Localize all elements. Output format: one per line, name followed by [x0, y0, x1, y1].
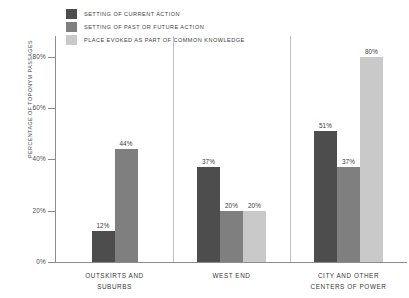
bar-group: 37%20%20%	[197, 36, 266, 262]
y-axis-tick-label: 60%	[28, 104, 46, 111]
bar-column: 37%	[197, 36, 220, 262]
bar-value-label: 20%	[243, 202, 266, 209]
bar-column: 51%	[314, 36, 337, 262]
y-axis-tick	[48, 262, 55, 263]
y-axis-tick	[48, 108, 55, 109]
bar-column: 44%	[115, 36, 138, 262]
x-axis-category-label: CITY AND OTHERCENTERS OF POWER	[290, 270, 407, 292]
legend-item-past-future-action: SETTING OF PAST OR FUTURE ACTION	[66, 21, 316, 32]
bar-value-label: 37%	[337, 158, 360, 165]
group-separator	[173, 36, 174, 262]
x-axis-category-label: OUTSKIRTS ANDSUBURBS	[56, 270, 173, 292]
y-axis-tick-label: 0%	[28, 258, 46, 265]
bar-value-label: 80%	[360, 48, 383, 55]
plot-area: 12%44%37%20%20%51%37%80%	[56, 36, 407, 262]
legend-swatch-past-future-action	[66, 22, 77, 32]
bar-chart: SETTING OF CURRENT ACTION SETTING OF PAS…	[0, 0, 409, 298]
bar	[337, 167, 360, 262]
legend-label-past-future-action: SETTING OF PAST OR FUTURE ACTION	[84, 22, 204, 32]
x-axis-category-label: WEST END	[173, 270, 290, 281]
bar	[197, 167, 220, 262]
bar-column: 37%	[337, 36, 360, 262]
bar	[243, 211, 266, 262]
bar-column: 20%	[243, 36, 266, 262]
bar-value-label: 37%	[197, 158, 220, 165]
bar-value-label: 20%	[220, 202, 243, 209]
y-axis-tick	[48, 57, 55, 58]
bar-column: 80%	[360, 36, 383, 262]
bar	[115, 149, 138, 262]
bar-value-label: 44%	[115, 140, 138, 147]
y-axis-tick-label: 80%	[28, 53, 46, 60]
group-separator	[290, 36, 291, 262]
legend-label-current-action: SETTING OF CURRENT ACTION	[84, 9, 180, 19]
x-axis-line	[55, 262, 407, 263]
bar-column: 20%	[220, 36, 243, 262]
category-label-line: CENTERS OF POWER	[290, 281, 407, 292]
bar-column: 12%	[92, 36, 115, 262]
legend-swatch-current-action	[66, 9, 77, 19]
y-axis-tick-label: 40%	[28, 155, 46, 162]
y-axis-tick	[48, 211, 55, 212]
category-label-line: WEST END	[173, 270, 290, 281]
bar-value-label: 51%	[314, 122, 337, 129]
legend-item-current-action: SETTING OF CURRENT ACTION	[66, 8, 316, 19]
bar	[92, 231, 115, 262]
category-label-line: CITY AND OTHER	[290, 270, 407, 281]
category-label-line: SUBURBS	[56, 281, 173, 292]
bar-value-label: 12%	[92, 222, 115, 229]
y-axis-tick	[48, 159, 55, 160]
y-axis-tick-label: 20%	[28, 207, 46, 214]
category-label-line: OUTSKIRTS AND	[56, 270, 173, 281]
bar-group: 12%44%	[92, 36, 138, 262]
bar	[220, 211, 243, 262]
bar	[360, 57, 383, 262]
bar	[314, 131, 337, 262]
bar-group: 51%37%80%	[314, 36, 383, 262]
